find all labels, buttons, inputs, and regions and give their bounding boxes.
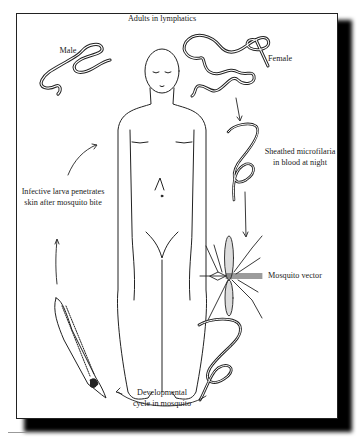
title-adults-in-lymphatics: Adults in lymphatics	[112, 13, 212, 24]
infective-larva-icon	[55, 298, 106, 398]
label-developmental-line2: cycle in mosquito	[122, 398, 202, 409]
arrow-microfilaria-to-mosquito	[245, 192, 246, 236]
label-male: Male	[54, 45, 82, 56]
arrow-larva-up	[56, 240, 57, 284]
label-mosquito-vector: Mosquito vector	[262, 270, 328, 281]
mosquito-icon	[200, 236, 262, 320]
label-microfilaria-line1: Sheathed microfilaria	[258, 146, 342, 157]
label-larva-line1: Infective larva penetrates	[14, 186, 112, 197]
arrow-female-to-microfilaria	[236, 98, 240, 120]
label-microfilaria-line2: in blood at night	[258, 157, 342, 168]
arrow-larva-to-human	[68, 145, 96, 175]
label-larva-line2: skin after mosquito bite	[14, 197, 112, 208]
microfilaria-icon	[228, 124, 258, 200]
human-figure-icon	[117, 49, 206, 399]
lifecycle-illustration	[0, 0, 359, 437]
female-worm-icon	[184, 35, 269, 96]
label-female: Female	[262, 53, 298, 64]
label-developmental-line1: Developmental	[122, 387, 202, 398]
